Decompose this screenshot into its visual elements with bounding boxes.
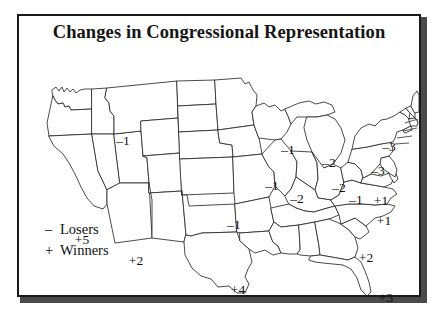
map-label-georgia: +2 (359, 251, 373, 265)
map-label-michigan: –2 (322, 156, 336, 170)
map-label-pennsylvania: –3 (371, 164, 385, 178)
map-legend: – Losers + Winners (45, 219, 109, 260)
map-label-west-virginia: –1 (349, 193, 363, 207)
legend-losers-label: Losers (60, 219, 99, 240)
map-label-wisconsin: –1 (281, 143, 295, 157)
figure-root: Changes in Congressional Representation (0, 0, 448, 315)
map-label-texas: +4 (231, 283, 245, 297)
map-label-virginia: +1 (374, 194, 388, 208)
map-label-arizona: +2 (129, 254, 143, 268)
legend-entry-losers: – Losers (45, 219, 109, 240)
map-label-illinois: –2 (290, 192, 304, 206)
map-label-north-carolina: +1 (377, 214, 391, 228)
map-label-ohio: –2 (332, 181, 346, 195)
legend-winners-label: Winners (60, 240, 109, 261)
legend-plus-symbol: + (45, 240, 60, 261)
legend-entry-winners: + Winners (45, 240, 109, 261)
map-label-iowa: –1 (265, 179, 279, 193)
map-label-kansas: –1 (227, 218, 241, 232)
legend-minus-symbol: – (45, 219, 60, 240)
figure-title: Changes in Congressional Representation (19, 22, 419, 43)
map-label-florida: +3 (379, 291, 393, 305)
map-label-montana: –1 (116, 134, 130, 148)
figure-frame: Changes in Congressional Representation (17, 14, 421, 297)
map-label-new-york: –3 (382, 140, 396, 154)
